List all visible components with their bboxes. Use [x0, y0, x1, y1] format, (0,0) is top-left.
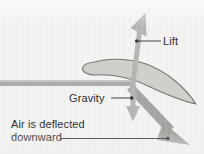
- lift-label: Lift: [163, 35, 178, 48]
- gravity-label: Gravity: [69, 92, 105, 105]
- incoming-airflow-bar: [0, 81, 134, 87]
- air-deflected-label: Air is deflected downward: [11, 118, 85, 144]
- airfoil-lift-diagram: Lift Gravity Air is deflected downward: [0, 0, 204, 154]
- gravity-leader-line: [111, 96, 133, 99]
- air-deflected-label-line2: downward: [11, 131, 85, 144]
- air-deflected-label-line1: Air is deflected: [11, 118, 85, 130]
